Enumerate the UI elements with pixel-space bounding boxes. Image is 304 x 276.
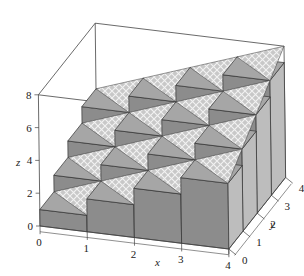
box-edge — [38, 23, 95, 95]
bar-front-face — [134, 188, 182, 243]
y-tick — [243, 231, 250, 237]
bars — [40, 46, 286, 249]
x-tick-label: 3 — [178, 253, 184, 265]
x-tick-label: 2 — [131, 248, 137, 260]
x-tick-label: 1 — [84, 242, 90, 254]
z-tick-label: 2 — [27, 187, 33, 199]
box-edge — [95, 23, 284, 46]
y-tick-label: 3 — [285, 200, 291, 212]
x-tick-label: 4 — [225, 259, 231, 271]
z-tick-label: 8 — [26, 89, 32, 101]
y-tick-label: 4 — [299, 182, 304, 194]
z-axis-label: z — [15, 156, 21, 168]
z-tick-label: 4 — [27, 154, 33, 166]
z-tick-label: 6 — [26, 122, 32, 134]
z-tick-label: 0 — [28, 220, 34, 232]
x-axis-label: x — [154, 256, 160, 268]
bar-front-face — [181, 178, 229, 249]
bar-side-face — [270, 63, 286, 196]
x-tick-label: 0 — [36, 236, 42, 248]
bar-3d-chart: 02468 01234 01234 x y z — [0, 0, 304, 276]
y-tick — [257, 213, 264, 219]
y-tick — [229, 249, 236, 255]
bar-front-face — [87, 199, 135, 238]
y-tick — [286, 177, 293, 183]
y-axis-label: y — [269, 218, 275, 230]
y-tick-label: 0 — [242, 254, 248, 266]
bar-side-face — [256, 97, 271, 213]
y-tick — [271, 195, 278, 201]
z-axis: 02468 — [26, 89, 40, 232]
y-tick-label: 1 — [256, 236, 262, 248]
